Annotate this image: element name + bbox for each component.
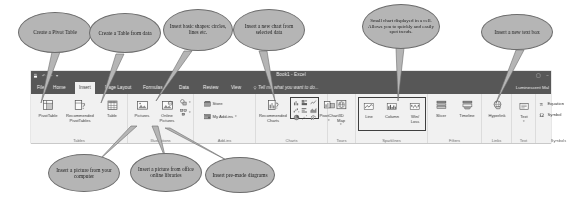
- callout-bubble: Insert pre-made diagrams: [205, 157, 275, 193]
- screenshot-root: 💾 ↶ ↷ ▾ Book1 - Excel ▢ − File Home Inse…: [0, 0, 574, 205]
- callout-tail: [0, 0, 574, 205]
